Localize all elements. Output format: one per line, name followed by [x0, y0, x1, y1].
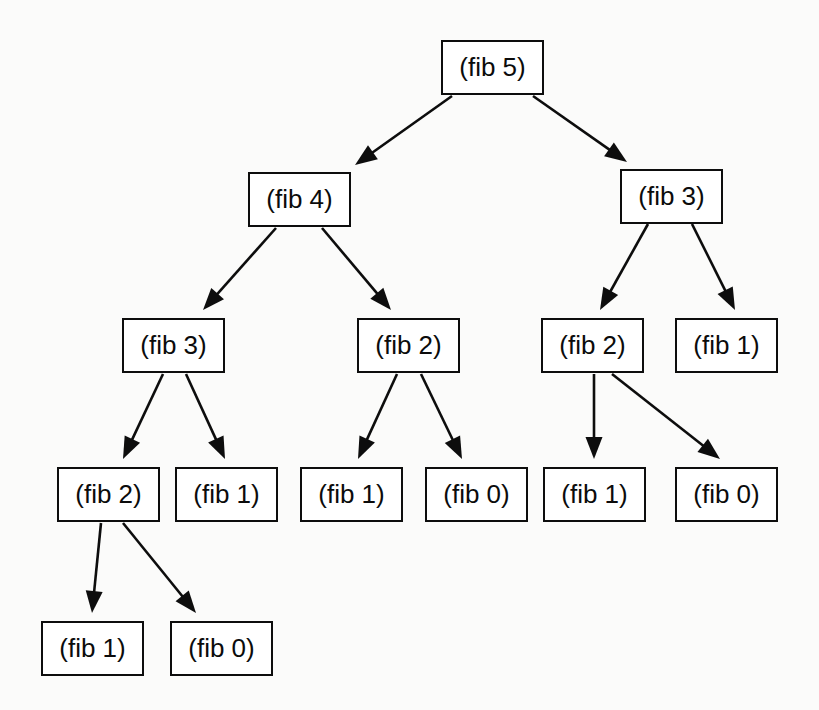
- tree-node[interactable]: (fib 4): [248, 172, 351, 227]
- tree-node[interactable]: (fib 1): [300, 467, 403, 522]
- tree-node[interactable]: (fib 2): [357, 318, 460, 373]
- tree-edge-line: [186, 374, 217, 443]
- tree-edge-line: [692, 224, 727, 294]
- tree-node[interactable]: (fib 0): [170, 621, 273, 676]
- tree-edge-line: [612, 374, 706, 448]
- tree-node-label: (fib 2): [375, 332, 441, 360]
- tree-edge-line: [123, 523, 185, 599]
- tree-edge-arrowhead: [358, 435, 375, 459]
- tree-node[interactable]: (fib 1): [675, 318, 778, 373]
- tree-edge-line: [131, 374, 163, 443]
- tree-edge-line: [322, 228, 379, 296]
- tree-node-label: (fib 1): [693, 332, 759, 360]
- tree-node-label: (fib 0): [443, 481, 509, 509]
- tree-edge-arrowhead: [355, 145, 378, 165]
- tree-edge-arrowhead: [123, 435, 140, 459]
- tree-node-label: (fib 1): [318, 481, 384, 509]
- tree-node[interactable]: (fib 1): [41, 621, 144, 676]
- tree-edge-arrowhead: [600, 287, 618, 310]
- tree-node-label: (fib 1): [561, 481, 627, 509]
- tree-edge-line: [370, 96, 452, 155]
- tree-node-label: (fib 3): [140, 332, 206, 360]
- tree-node[interactable]: (fib 1): [543, 467, 646, 522]
- tree-node-label: (fib 1): [59, 635, 125, 663]
- tree-node-label: (fib 2): [559, 332, 625, 360]
- tree-edge-arrowhead: [604, 142, 627, 162]
- tree-edge-line: [533, 96, 612, 152]
- tree-node-label: (fib 4): [266, 186, 332, 214]
- tree-node[interactable]: (fib 1): [175, 467, 278, 522]
- tree-node[interactable]: (fib 2): [541, 318, 644, 373]
- tree-edge-line: [609, 224, 648, 294]
- tree-edge-line: [421, 374, 454, 443]
- tree-node[interactable]: (fib 3): [122, 318, 225, 373]
- tree-node-label: (fib 3): [638, 183, 704, 211]
- tree-edge-line: [94, 523, 101, 595]
- tree-edge-line: [366, 374, 397, 443]
- tree-node-label: (fib 2): [75, 481, 141, 509]
- tree-edge-arrowhead: [697, 439, 720, 459]
- tree-node-label: (fib 1): [193, 481, 259, 509]
- tree-node-label: (fib 0): [693, 481, 759, 509]
- tree-edge-arrowhead: [86, 590, 103, 613]
- tree-edge-line: [215, 228, 276, 297]
- tree-edge-arrowhead: [586, 437, 603, 459]
- tree-edge-arrowhead: [445, 435, 462, 459]
- tree-node[interactable]: (fib 2): [57, 467, 160, 522]
- tree-node[interactable]: (fib 0): [425, 467, 528, 522]
- tree-edge-arrowhead: [176, 591, 196, 613]
- tree-edge-arrowhead: [718, 287, 735, 310]
- tree-edge-arrowhead: [208, 435, 225, 459]
- tree-node-label: (fib 0): [188, 635, 254, 663]
- tree-node[interactable]: (fib 5): [441, 40, 544, 95]
- tree-node[interactable]: (fib 0): [675, 467, 778, 522]
- tree-node[interactable]: (fib 3): [620, 169, 723, 224]
- tree-node-label: (fib 5): [459, 54, 525, 82]
